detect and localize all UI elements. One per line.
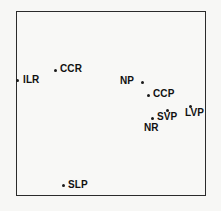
point-marker-icon xyxy=(141,81,144,84)
point-label: ILR xyxy=(23,75,39,85)
point-label: NP xyxy=(120,76,134,86)
scatter-plot-screenshot: ILRCCRNPCCPSVPLVPNRSLP xyxy=(0,0,221,211)
point-label: NR xyxy=(144,123,159,133)
plot-data-area: ILRCCRNPCCPSVPLVPNRSLP xyxy=(0,0,221,211)
point-marker-icon xyxy=(54,69,57,72)
point-marker-icon xyxy=(62,184,65,187)
point-label: SLP xyxy=(68,180,88,190)
point-label: CCR xyxy=(60,64,82,74)
point-marker-icon xyxy=(147,94,150,97)
point-label: SVP xyxy=(157,112,177,122)
point-label: LVP xyxy=(185,108,204,118)
point-label: CCP xyxy=(153,89,174,99)
point-marker-icon xyxy=(151,117,154,120)
point-marker-icon xyxy=(16,79,19,82)
